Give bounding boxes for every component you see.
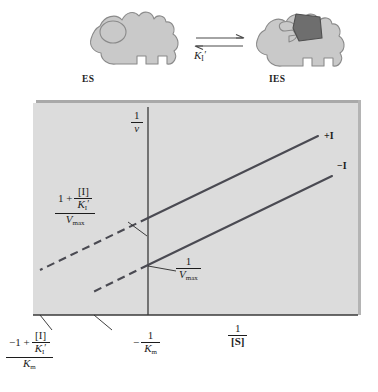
- onevmax-vmax-base: V: [179, 268, 186, 280]
- yint-vmax-base: V: [66, 213, 73, 225]
- yint-inner-numerator: [I]: [74, 186, 92, 197]
- yint-ki-prime: ′: [87, 198, 89, 209]
- y-intercept-inhibited-denominator: Vmax: [55, 213, 95, 227]
- y-intercept-inhibited-numerator: 1 +[I]KI′: [55, 186, 95, 212]
- line-label-plus-inhibitor: +I: [324, 131, 334, 141]
- xint2-km-base: K: [144, 342, 151, 354]
- xint-inner-denominator: KI′: [32, 342, 50, 356]
- xint2-sign: −: [133, 336, 139, 348]
- leader-y-intercept-uninhibited: [148, 266, 176, 271]
- x-intercept-inhibited-numerator: −1 +[I]KI′: [6, 330, 53, 356]
- x-axis-label-denominator: [S]: [228, 335, 247, 347]
- leader-x-intercept-inhibited: [40, 315, 52, 330]
- xint-minus-one-plus: −1 +: [9, 336, 30, 348]
- line-minus-inhibitor: [148, 176, 332, 265]
- leader-y-intercept-inhibited: [128, 222, 147, 236]
- yint-inner-denominator: KI′: [74, 198, 92, 212]
- line-label-minus-inhibitor: −I: [337, 161, 347, 171]
- y-axis-label-numerator: 1: [131, 110, 143, 121]
- figure-uncompetitive-inhibition: ES IES KI′ 1 v +I −I 1 +[I]: [0, 0, 378, 392]
- y-intercept-uninhibited-label: 1 Vmax: [176, 256, 201, 282]
- xint-km-sub: m: [30, 363, 35, 371]
- x-intercept-uninhibited-label: − 1 Km: [133, 330, 160, 356]
- yint-one-plus: 1 +: [58, 192, 72, 204]
- xint2-numerator: 1: [141, 330, 160, 341]
- line-minus-inhibitor-extrapolation: [93, 265, 148, 292]
- onevmax-vmax-sub: max: [186, 274, 198, 282]
- yint-ki-base: K: [77, 198, 84, 210]
- xint-inner-numerator: [I]: [32, 330, 50, 341]
- xint2-km-sub: m: [152, 348, 157, 356]
- onevmax-denominator: Vmax: [176, 268, 201, 282]
- xint-ki-base: K: [35, 342, 42, 354]
- y-axis-label-denominator: v: [131, 122, 143, 134]
- onevmax-numerator: 1: [176, 256, 201, 267]
- y-intercept-inhibited-label: 1 +[I]KI′ Vmax: [55, 186, 95, 227]
- x-axis-label: 1 [S]: [228, 323, 247, 347]
- line-plus-inhibitor: [148, 136, 318, 218]
- xint-ki-prime: ′: [44, 342, 46, 353]
- y-axis-label: 1 v: [131, 110, 143, 134]
- yint-vmax-sub: max: [73, 219, 85, 227]
- x-intercept-inhibited-denominator: Km: [6, 357, 53, 371]
- xint2-denominator: Km: [141, 342, 160, 356]
- leader-x-intercept-uninhibited: [94, 315, 112, 330]
- x-axis-label-numerator: 1: [228, 323, 247, 334]
- x-intercept-inhibited-label: −1 +[I]KI′ Km: [6, 330, 53, 371]
